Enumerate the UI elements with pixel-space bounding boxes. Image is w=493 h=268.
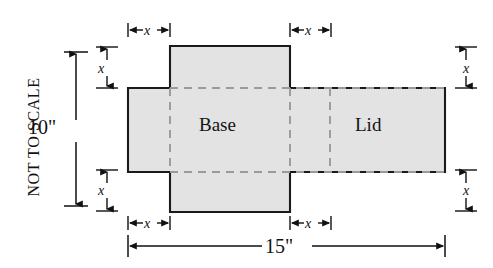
x-label-bottom-left: x xyxy=(144,216,150,232)
diagram-svg xyxy=(0,0,493,268)
dimension-height-10 xyxy=(64,52,88,206)
width-dimension-label: 15" xyxy=(265,236,293,256)
lid-panel-label: Lid xyxy=(355,115,381,134)
x-label-left-top: x xyxy=(98,61,104,77)
x-label-bottom-right: x xyxy=(305,216,311,232)
x-label-right-top: x xyxy=(463,61,469,77)
height-dimension-label: 10" xyxy=(28,117,56,137)
x-label-left-bottom: x xyxy=(98,183,104,199)
sheet-outline xyxy=(128,46,445,212)
x-label-top-right: x xyxy=(305,23,311,39)
sheet-shape xyxy=(128,46,445,212)
x-label-right-bottom: x xyxy=(463,183,469,199)
figure-canvas: NOT TO SCALE 10" 15" Base Lid x x x x x … xyxy=(0,0,493,268)
base-panel-label: Base xyxy=(199,115,236,134)
x-label-top-left: x xyxy=(144,23,150,39)
